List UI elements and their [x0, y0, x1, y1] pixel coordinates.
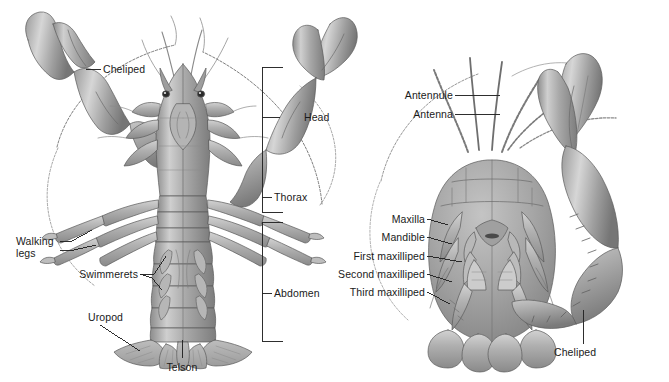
label-head: Head	[304, 111, 330, 123]
leader-uropod	[100, 325, 140, 351]
label-walking-legs-line1: Walking	[16, 235, 54, 247]
right-cheliped-dorsal	[230, 18, 357, 207]
label-first-maxilliped: First maxilliped	[285, 250, 425, 262]
label-third-maxilliped: Third maxilliped	[285, 286, 425, 298]
label-cheliped-left: Cheliped	[103, 63, 145, 75]
label-thorax: Thorax	[274, 191, 307, 203]
label-maxilla: Maxilla	[285, 213, 425, 225]
lobster-illustration	[0, 0, 669, 382]
label-mandible: Mandible	[285, 231, 425, 243]
label-antennule: Antennule	[353, 89, 453, 101]
label-swimmerets: Swimmerets	[18, 268, 138, 280]
label-cheliped-right: Cheliped	[554, 346, 596, 358]
figure-canvas: Cheliped Head Thorax Abdomen Walking leg…	[0, 0, 669, 382]
label-walking-legs-line2: legs	[16, 247, 36, 259]
label-uropod: Uropod	[88, 311, 123, 323]
label-second-maxilliped: Second maxilliped	[285, 268, 425, 280]
label-telson: Telson	[152, 361, 212, 373]
dorsal-lobster	[26, 12, 358, 370]
label-antenna: Antenna	[353, 108, 453, 120]
